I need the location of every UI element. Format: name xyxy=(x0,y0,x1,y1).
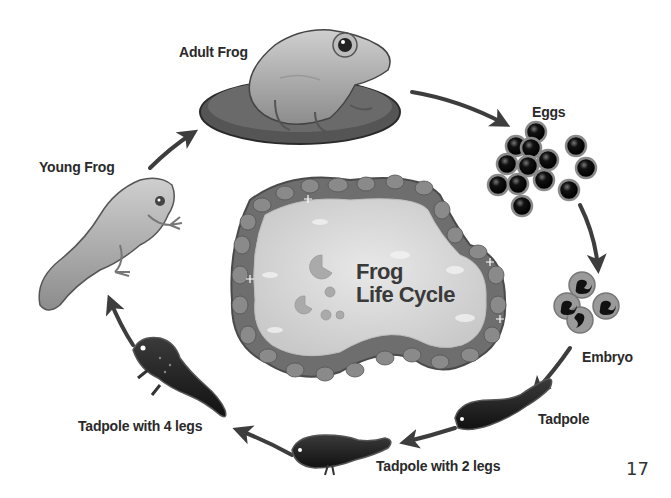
diagram-title: Frog Life Cycle xyxy=(356,260,455,306)
label-tadpole-with-4-legs: Tadpole with 4 legs xyxy=(78,418,202,434)
arrow-young-to-adult xyxy=(150,133,193,168)
egg-cluster-icon xyxy=(488,122,596,216)
tadpole-with-4-legs-icon xyxy=(133,338,226,417)
label-embryo: Embryo xyxy=(582,349,633,365)
label-adult-frog: Adult Frog xyxy=(179,44,248,60)
label-eggs: Eggs xyxy=(532,104,565,120)
title-line-2: Life Cycle xyxy=(356,283,455,306)
label-young-frog: Young Frog xyxy=(39,159,115,175)
title-line-1: Frog xyxy=(356,260,455,283)
arrow-4legs-to-young xyxy=(110,300,133,345)
arrow-tadpole-to-2legs xyxy=(405,428,455,442)
arrow-2legs-to-4legs xyxy=(238,430,292,455)
page-number: 17 xyxy=(626,458,649,479)
young-frog-icon xyxy=(39,178,182,310)
embryo-cluster-icon xyxy=(554,272,619,333)
arrow-eggs-to-embryo xyxy=(580,205,598,268)
label-tadpole-with-2-legs: Tadpole with 2 legs xyxy=(376,458,500,474)
frog-life-cycle-diagram: Adult Frog Eggs Embryo Tadpole Tadpole w… xyxy=(0,0,671,498)
label-tadpole: Tadpole xyxy=(538,411,589,427)
arrow-adult-to-eggs xyxy=(412,92,505,124)
